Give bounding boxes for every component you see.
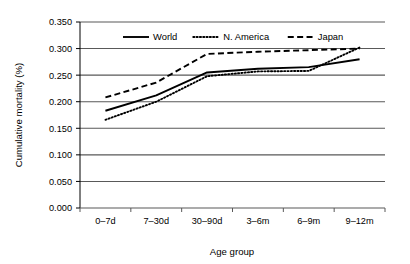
x-axis-tick-labels: 0–7d7–30d30–90d3–6m6–9m9–12m	[95, 216, 374, 226]
legend-label-japan: Japan	[318, 31, 344, 42]
legend-label-world: World	[153, 31, 177, 42]
x-tick-label: 3–6m	[246, 216, 269, 226]
plot-area-background	[80, 22, 385, 208]
y-tick-label: 0.050	[49, 177, 72, 187]
y-tick-label: 0.100	[49, 150, 72, 160]
line-chart: 0.0000.0500.1000.1500.2000.2500.3000.350…	[0, 0, 410, 264]
x-tick-label: 6–9m	[297, 216, 320, 226]
chart-figure: 0.0000.0500.1000.1500.2000.2500.3000.350…	[0, 0, 410, 264]
x-tick-label: 9–12m	[346, 216, 374, 226]
x-tick-label: 30–90d	[192, 216, 223, 226]
y-tick-label: 0.200	[49, 97, 72, 107]
x-tick-label: 7–30d	[143, 216, 169, 226]
y-tick-label: 0.150	[49, 124, 72, 134]
y-tick-label: 0.300	[49, 44, 72, 54]
x-axis-title: Age group	[210, 246, 254, 257]
y-tick-label: 0.250	[49, 71, 72, 81]
y-tick-label: 0.000	[49, 203, 72, 213]
y-tick-label: 0.350	[49, 17, 72, 27]
legend-label-n-america: N. America	[223, 31, 270, 42]
x-axis-ticks	[80, 208, 385, 212]
y-axis-title: Cumulative mortality (%)	[13, 63, 24, 168]
x-tick-label: 0–7d	[95, 216, 115, 226]
y-axis-ticks: 0.0000.0500.1000.1500.2000.2500.3000.350	[49, 17, 80, 213]
